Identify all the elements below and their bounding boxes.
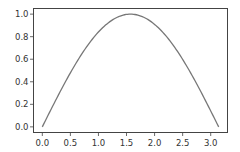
y-tick-label: 0.6 (15, 54, 29, 64)
y-tick-label: 0.2 (15, 99, 29, 109)
x-tick-label: 0.0 (36, 138, 50, 148)
y-tick-label: 0.0 (15, 122, 29, 132)
plot-area (42, 14, 218, 127)
sine-chart: 0.00.20.40.60.81.0 0.00.51.01.52.02.53.0 (0, 0, 240, 152)
y-axis: 0.00.20.40.60.81.0 (15, 9, 34, 132)
x-axis: 0.00.51.01.52.02.53.0 (36, 133, 218, 148)
axes-frame (34, 9, 228, 133)
x-tick-label: 2.0 (148, 138, 162, 148)
y-tick-label: 0.4 (15, 77, 29, 87)
series-line-0 (42, 14, 218, 127)
x-tick-label: 3.0 (204, 138, 218, 148)
x-tick-label: 1.0 (92, 138, 106, 148)
x-tick-label: 1.5 (120, 138, 134, 148)
x-tick-label: 0.5 (64, 138, 78, 148)
y-tick-label: 0.8 (15, 32, 29, 42)
y-tick-label: 1.0 (15, 9, 29, 19)
x-tick-label: 2.5 (176, 138, 190, 148)
